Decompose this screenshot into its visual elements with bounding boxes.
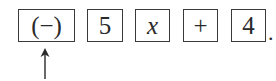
x-key-label: x (147, 13, 158, 38)
sentence-period: . (268, 20, 274, 46)
four-key[interactable]: 4 (231, 9, 266, 42)
negative-key-label: (−) (31, 13, 62, 38)
plus-key[interactable]: + (183, 9, 218, 42)
up-arrow-icon (38, 48, 52, 79)
negative-key[interactable]: (−) (18, 9, 75, 42)
x-key[interactable]: x (135, 9, 170, 42)
four-key-label: 4 (242, 13, 255, 38)
five-key[interactable]: 5 (87, 9, 123, 42)
plus-key-label: + (193, 13, 207, 38)
five-key-label: 5 (99, 13, 112, 38)
